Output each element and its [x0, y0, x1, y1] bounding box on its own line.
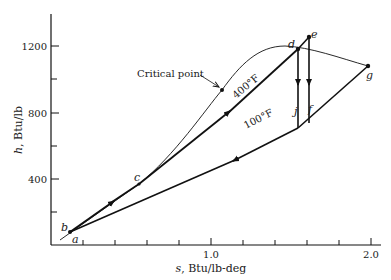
x-ticks	[83, 238, 371, 245]
path-a-to-c-rest	[112, 184, 139, 202]
y-ticks	[51, 46, 59, 212]
isotherm-100F-j-to-a	[70, 160, 235, 232]
point-label-c: c	[134, 171, 140, 184]
y-axis-title: h, Btu/lb	[12, 106, 25, 154]
isotherm-100F-j-to-a-arrow	[233, 128, 298, 161]
point-label-b: b	[61, 221, 68, 234]
path-d-to-e	[298, 37, 309, 49]
point-label-d: d	[288, 38, 295, 51]
point-label-a: a	[72, 233, 79, 246]
y-tick-label-800: 800	[28, 108, 47, 119]
saturation-dome-curve	[60, 46, 368, 240]
path-c-to-d-400F	[139, 111, 230, 184]
point-label-j: j	[291, 105, 298, 118]
x-axis-title: s, Btu/lb-deg	[176, 262, 247, 275]
x-tick-label-2: 2.0	[363, 249, 379, 260]
state-points	[68, 35, 370, 234]
critical-point-pointer	[200, 75, 219, 87]
critical-point-dot	[220, 88, 224, 92]
point-label-g: g	[366, 69, 373, 82]
y-tick-label-1200: 1200	[22, 41, 47, 52]
critical-point-label: Critical point	[137, 68, 204, 79]
point-g-dot	[366, 64, 370, 68]
x-tick-label-1: 1.0	[203, 249, 219, 260]
path-c-to-d-400F-rest	[228, 49, 298, 113]
y-tick-label-400: 400	[28, 174, 47, 185]
isotherm-100F-label: 100°F	[242, 107, 275, 131]
point-d-dot	[296, 47, 300, 51]
h-s-diagram: 1.0 2.0 400 800 1200 s, Btu/lb-deg h, Bt…	[0, 0, 391, 280]
point-label-e: e	[311, 28, 318, 41]
